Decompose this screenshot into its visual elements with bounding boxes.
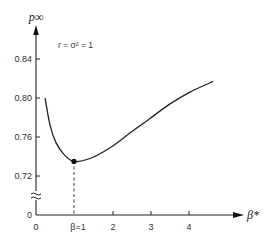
x-ticks: 0 β=1 2 3 4 — [33, 211, 191, 232]
y-tick-label: 0.84 — [14, 54, 32, 64]
data-curve — [45, 81, 213, 161]
axis-break-icon — [30, 191, 42, 200]
x-axis-arrow-icon — [233, 212, 244, 218]
y-tick-label: 0.76 — [14, 132, 32, 142]
x-axis — [36, 212, 244, 218]
x-tick-label: 2 — [110, 222, 115, 232]
y-tick-label: 0.72 — [14, 171, 32, 181]
parameter-annotation: r = σ² = 1 — [58, 40, 93, 50]
x-axis-label: β* — [246, 208, 259, 222]
line-chart: 0.84 0.80 0.76 0.72 0 0 β=1 2 3 4 p∞ β* … — [0, 0, 268, 242]
y-tick-label: 0.80 — [14, 93, 32, 103]
y-axis-arrow-icon — [33, 25, 39, 35]
x-tick-label: β=1 — [70, 222, 85, 232]
y-axis-label: p∞ — [28, 10, 44, 24]
minimum-point-marker — [71, 159, 76, 164]
x-tick-label: 0 — [33, 222, 38, 232]
x-tick-label: 4 — [186, 222, 191, 232]
x-tick-label: 3 — [148, 222, 153, 232]
y-tick-label: 0 — [27, 210, 32, 220]
